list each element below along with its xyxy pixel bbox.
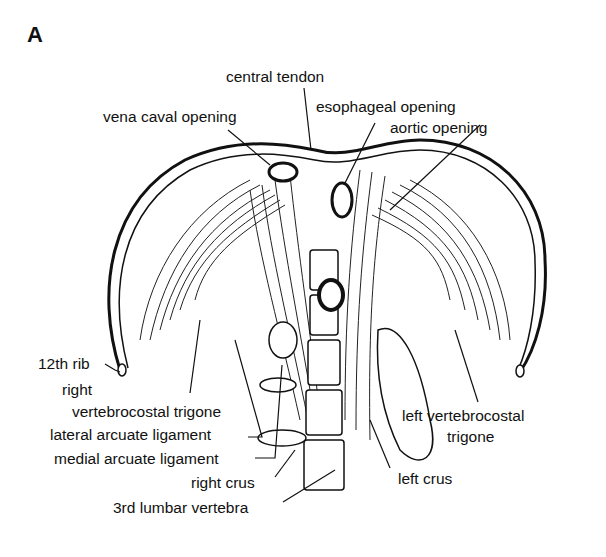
label-12th-rib: 12th rib	[38, 355, 90, 372]
label-aortic-opening: aortic opening	[390, 119, 487, 136]
label-lateral-arcuate-ligament: lateral arcuate ligament	[50, 426, 211, 443]
label-left-vertebrocostal-trigone-line1: left vertebrocostal	[402, 407, 524, 424]
esophageal-opening-shape	[332, 183, 352, 217]
vena-caval-opening-shape	[269, 163, 297, 181]
right-leaf-fibers	[372, 180, 510, 340]
left-12th-rib-tip	[516, 365, 524, 377]
label-3rd-lumbar-vertebra: 3rd lumbar vertebra	[113, 499, 248, 516]
label-right-vertebrocostal-trigone-line1: right	[62, 381, 92, 398]
label-right-crus: right crus	[191, 474, 255, 491]
label-left-vertebrocostal-trigone-line2: trigone	[447, 428, 494, 445]
psoas-muscle	[377, 328, 432, 460]
label-vena-caval-opening: vena caval opening	[103, 108, 237, 125]
transverse-processes	[258, 322, 306, 446]
label-medial-arcuate-ligament: medial arcuate ligament	[54, 450, 219, 467]
label-central-tendon: central tendon	[226, 68, 324, 85]
label-right-vertebrocostal-trigone-line2: vertebrocostal trigone	[72, 403, 221, 420]
aortic-opening-shape	[319, 280, 343, 310]
label-left-crus: left crus	[398, 470, 452, 487]
label-esophageal-opening: esophageal opening	[316, 98, 456, 115]
right-12th-rib-tip	[118, 364, 126, 376]
